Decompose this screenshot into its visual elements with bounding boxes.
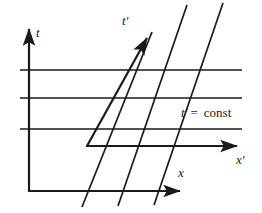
const-annotation-value: const	[200, 105, 231, 120]
x-prime-const-line-3	[154, 3, 223, 205]
spacetime-diagram-figure: t t′ x x′ t′=const	[0, 0, 262, 213]
x-axis-label: x	[178, 166, 184, 179]
t-prime-axis-label: t′	[122, 14, 128, 27]
t-prime-const-lines	[20, 70, 242, 129]
t-prime-const-annotation: t′=const	[181, 106, 231, 119]
x-prime-const-line-2	[118, 5, 187, 206]
x-prime-axis-label: x′	[236, 153, 245, 166]
const-annotation-equals: =	[187, 105, 199, 120]
x-prime-const-line-1	[82, 32, 152, 207]
t-axis-label: t	[36, 26, 40, 39]
